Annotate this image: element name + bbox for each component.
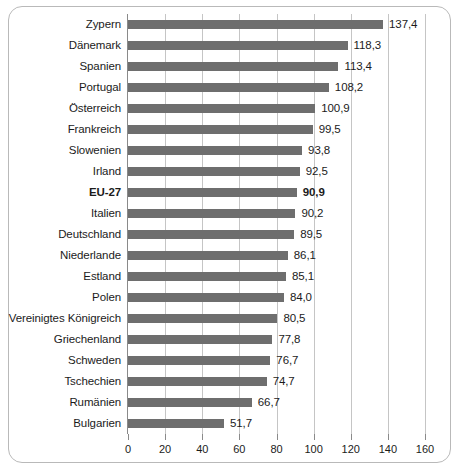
- bar: [128, 356, 270, 365]
- category-label: Italien: [1, 203, 121, 224]
- bar-value-label: 113,4: [344, 56, 371, 77]
- bar: [128, 125, 313, 134]
- bar: [128, 209, 295, 218]
- x-tick-label: 100: [294, 440, 334, 458]
- category-label: Schweden: [1, 350, 121, 371]
- bar-row: Griechenland77,8: [0, 329, 461, 350]
- bar-value-label: 74,7: [273, 371, 295, 392]
- bar-row: Estland85,1: [0, 266, 461, 287]
- bar-row: Slowenien93,8: [0, 140, 461, 161]
- bar-value-label: 93,8: [308, 140, 330, 161]
- x-tick-label: 0: [108, 440, 148, 458]
- x-tick-label: 120: [331, 440, 371, 458]
- category-label: Slowenien: [1, 140, 121, 161]
- bar: [128, 377, 267, 386]
- category-label: Bulgarien: [1, 413, 121, 434]
- bar-row: Irland92,5: [0, 161, 461, 182]
- category-label: Spanien: [1, 56, 121, 77]
- x-tick-label: 20: [145, 440, 185, 458]
- category-label: EU-27: [1, 182, 121, 203]
- bar: [128, 20, 383, 29]
- bar-value-label: 66,7: [258, 392, 280, 413]
- bar-value-label: 84,0: [290, 287, 312, 308]
- bar-row: Italien90,2: [0, 203, 461, 224]
- bar: [128, 167, 300, 176]
- category-label: Vereinigtes Königreich: [1, 308, 121, 329]
- x-tick-label: 80: [257, 440, 297, 458]
- bar-value-label: 89,5: [300, 224, 322, 245]
- bar-row: Österreich100,9: [0, 98, 461, 119]
- category-label: Irland: [1, 161, 121, 182]
- category-label: Deutschland: [1, 224, 121, 245]
- bar-row: Zypern137,4: [0, 14, 461, 35]
- bar-value-label: 92,5: [306, 161, 328, 182]
- bar-value-label: 99,5: [319, 119, 341, 140]
- bar-row: Vereinigtes Königreich80,5: [0, 308, 461, 329]
- bar-row: Rumänien66,7: [0, 392, 461, 413]
- category-label: Niederlande: [1, 245, 121, 266]
- bar-row: Dänemark118,3: [0, 35, 461, 56]
- category-label: Österreich: [1, 98, 121, 119]
- bar-value-label: 108,2: [335, 77, 363, 98]
- bar: [128, 41, 348, 50]
- category-label: Rumänien: [1, 392, 121, 413]
- bar-row: Frankreich99,5: [0, 119, 461, 140]
- bar-value-label: 76,7: [276, 350, 298, 371]
- bar-value-label: 90,2: [301, 203, 323, 224]
- bar-chart: Zypern137,4Dänemark118,3Spanien113,4Port…: [0, 0, 461, 476]
- category-label: Dänemark: [1, 35, 121, 56]
- bar-value-label: 86,1: [294, 245, 316, 266]
- bar-value-label: 85,1: [292, 266, 314, 287]
- bar-value-label: 77,8: [278, 329, 300, 350]
- bar-value-label: 80,5: [283, 308, 305, 329]
- x-tick-label: 140: [368, 440, 408, 458]
- bar-value-label: 90,9: [303, 182, 325, 203]
- bar: [128, 230, 294, 239]
- bar-value-label: 137,4: [389, 14, 417, 35]
- bar: [128, 146, 302, 155]
- bar: [128, 419, 224, 428]
- bar: [128, 398, 252, 407]
- category-label: Tschechien: [1, 371, 121, 392]
- bar: [128, 62, 338, 71]
- bar-row: Spanien113,4: [0, 56, 461, 77]
- bar: [128, 188, 297, 197]
- bar: [128, 83, 329, 92]
- bar: [128, 104, 315, 113]
- category-label: Portugal: [1, 77, 121, 98]
- bar-row: Bulgarien51,7: [0, 413, 461, 434]
- x-tick-label: 160: [405, 440, 445, 458]
- category-label: Frankreich: [1, 119, 121, 140]
- bar-row: Schweden76,7: [0, 350, 461, 371]
- bar: [128, 251, 288, 260]
- bar: [128, 314, 277, 323]
- bar-row: Niederlande86,1: [0, 245, 461, 266]
- bar: [128, 272, 286, 281]
- x-tick-label: 40: [182, 440, 222, 458]
- x-tick-label: 60: [219, 440, 259, 458]
- bar-value-label: 100,9: [321, 98, 349, 119]
- category-label: Polen: [1, 287, 121, 308]
- bar: [128, 293, 284, 302]
- bar-row: Portugal108,2: [0, 77, 461, 98]
- bar-row: Polen84,0: [0, 287, 461, 308]
- bar-row: Tschechien74,7: [0, 371, 461, 392]
- x-axis: 020406080100120140160: [0, 440, 461, 462]
- bar-value-label: 118,3: [354, 35, 381, 56]
- bar-row: Deutschland89,5: [0, 224, 461, 245]
- category-label: Zypern: [1, 14, 121, 35]
- bar-value-label: 51,7: [230, 413, 252, 434]
- bar: [128, 335, 272, 344]
- category-label: Estland: [1, 266, 121, 287]
- category-label: Griechenland: [1, 329, 121, 350]
- bar-row: EU-2790,9: [0, 182, 461, 203]
